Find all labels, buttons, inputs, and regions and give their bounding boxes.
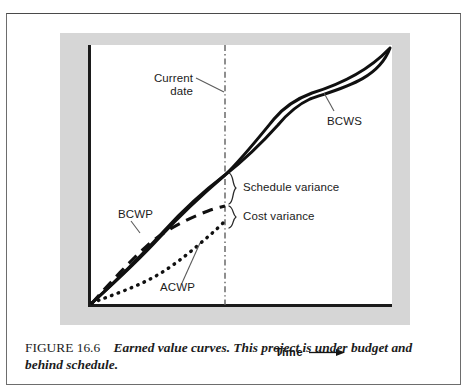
acwp-leader-line (182, 243, 200, 283)
figure-caption: FIGURE 16.6 Earned value curves. This pr… (25, 340, 435, 373)
plot-area: Current date BCWS BCWP ACWP Schedule var… (88, 45, 392, 307)
bcwp-curve (92, 206, 225, 303)
bcwp-leader-line (131, 221, 140, 233)
bcws-leader-line (324, 93, 334, 111)
schedule-variance-label: Schedule variance (243, 181, 339, 194)
current-date-label-line2: date (121, 85, 193, 98)
current-date-label-line1: Current (121, 72, 193, 85)
figure-page: Cost Time (0, 0, 473, 388)
current-date-leader-line (196, 78, 224, 92)
figure-number: FIGURE 16.6 (25, 340, 100, 355)
current-date-label: Current date (121, 72, 193, 98)
acwp-label: ACWP (160, 281, 195, 294)
bcws-label: BCWS (327, 115, 362, 128)
cost-variance-brace (229, 206, 236, 228)
schedule-variance-brace (229, 173, 236, 204)
bcwp-label: BCWP (118, 208, 153, 221)
cost-variance-label: Cost variance (243, 210, 315, 223)
figure-panel: Cost Time (60, 33, 410, 325)
acwp-curve (92, 221, 225, 303)
